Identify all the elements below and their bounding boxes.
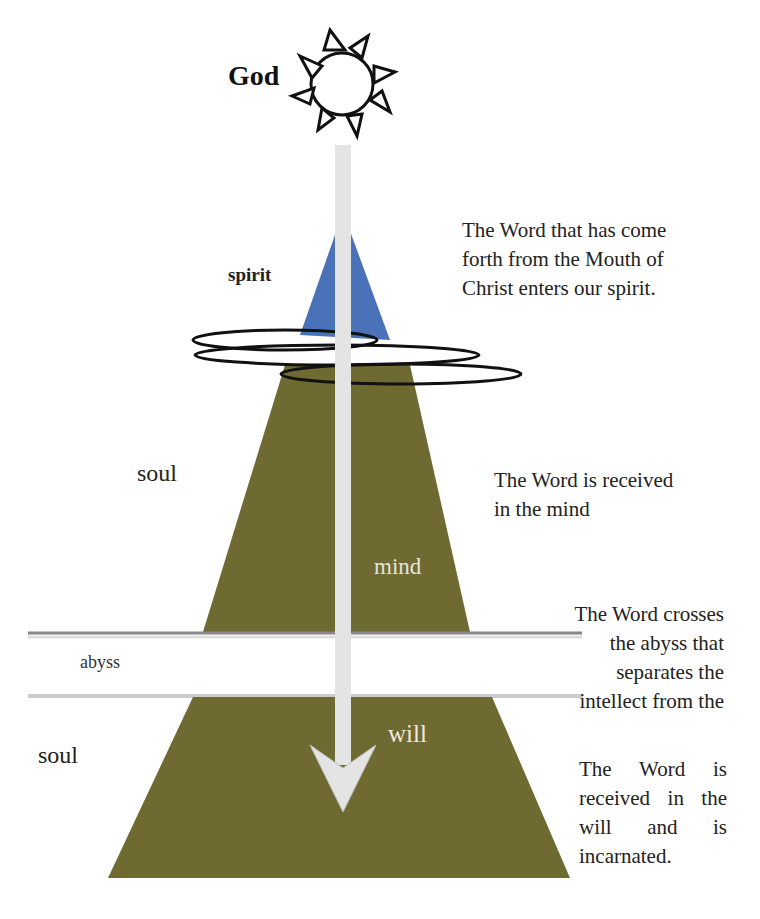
note-line: received in the (579, 784, 727, 813)
note-line: Christ enters our spirit. (462, 274, 666, 303)
note-line: incarnated. (579, 842, 727, 871)
note-line: will and is (579, 813, 727, 842)
abyss-label: abyss (80, 652, 120, 673)
soul-upper-label: soul (137, 460, 177, 487)
note-line: The Word is (579, 755, 727, 784)
note-line: The Word that has come (462, 216, 666, 245)
note-will: The Word is received in the will and is … (579, 755, 727, 871)
god-label: God (228, 60, 279, 92)
note-abyss: The Word crosses the abyss that separate… (574, 600, 724, 716)
note-spirit: The Word that has come forth from the Mo… (462, 216, 666, 303)
note-line: The Word is received (494, 466, 673, 495)
soul-lower-label: soul (38, 742, 78, 769)
note-line: separates the (574, 658, 724, 687)
mind-label: mind (374, 554, 421, 580)
sun-icon (292, 30, 395, 136)
note-line: the abyss that (574, 629, 724, 658)
note-line: intellect from the (574, 687, 724, 716)
note-line: The Word crosses (574, 600, 724, 629)
note-line: forth from the Mouth of (462, 245, 666, 274)
will-label: will (388, 720, 427, 748)
note-line: in the mind (494, 495, 673, 524)
note-mind: The Word is received in the mind (494, 466, 673, 524)
spirit-label: spirit (228, 264, 271, 286)
